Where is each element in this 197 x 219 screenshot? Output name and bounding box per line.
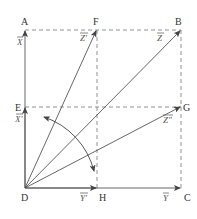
- svg-text:Z": Z": [163, 115, 172, 125]
- svg-text:Z': Z': [80, 33, 88, 43]
- svg-text:X: X: [16, 37, 23, 47]
- svg-text:X': X': [14, 114, 23, 124]
- point-label-H: H: [99, 192, 106, 203]
- point-label-B: B: [175, 16, 182, 27]
- svg-text:Y': Y': [80, 193, 88, 203]
- point-label-D: D: [21, 192, 28, 203]
- svg-text:Y: Y: [163, 193, 169, 203]
- vector-label-Y-prime: Y': [80, 193, 88, 203]
- vector-label-X-prime: X': [14, 114, 23, 124]
- diagram-canvas: A F B E G D H C X X' Z' Z Z" Y': [0, 0, 197, 219]
- vector-label-Z: Z: [157, 33, 164, 43]
- point-label-F: F: [93, 16, 99, 27]
- point-label-A: A: [21, 16, 29, 27]
- svg-text:Z: Z: [157, 33, 163, 43]
- point-label-C: C: [184, 192, 191, 203]
- vector-Z-prime: [25, 31, 96, 188]
- vector-label-Z-prime: Z': [80, 33, 88, 43]
- point-label-G: G: [183, 102, 190, 113]
- vector-Z-double-prime: [25, 107, 180, 188]
- vector-diagram: A F B E G D H C X X' Z' Z Z" Y': [0, 0, 197, 219]
- point-label-E: E: [15, 102, 21, 113]
- vectors: [25, 31, 180, 188]
- vector-Z: [25, 31, 180, 188]
- vector-label-Z-double-prime: Z": [163, 115, 173, 125]
- vector-label-Y: Y: [163, 193, 169, 203]
- vector-label-X: X: [16, 37, 23, 47]
